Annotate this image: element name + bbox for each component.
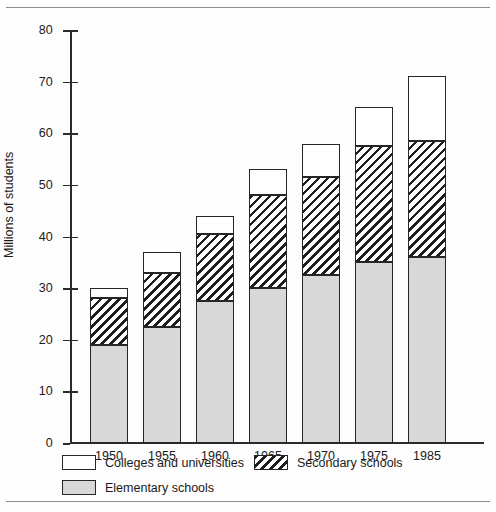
bar-segment-colleges-1970[interactable] [302, 144, 340, 178]
y-tick-label-0: 0 [46, 436, 53, 450]
bar-segment-colleges-1985[interactable] [408, 76, 446, 141]
legend-item-colleges-and-universities: Colleges and universities [62, 455, 244, 470]
bar-segment-elementary-1950[interactable] [90, 345, 128, 443]
y-tick-label-80: 80 [39, 23, 53, 37]
y-tick-label-20: 20 [39, 333, 53, 347]
y-tick-70: 70 [63, 82, 70, 84]
bar-1970[interactable] [302, 144, 340, 443]
bar-segment-elementary-1970[interactable] [302, 275, 340, 443]
bar-segment-secondary-1960[interactable] [196, 234, 234, 301]
legend-swatch-diagonal-hatch-icon [254, 455, 288, 470]
bar-segment-colleges-1950[interactable] [90, 288, 128, 298]
bar-segment-elementary-1960[interactable] [196, 301, 234, 443]
bar-1955[interactable] [143, 252, 181, 443]
bar-segment-secondary-1955[interactable] [143, 273, 181, 327]
legend-swatch-solid-gray-icon [62, 480, 96, 495]
y-tick-50: 50 [63, 185, 70, 187]
bar-1960[interactable] [196, 216, 234, 443]
y-tick-30: 30 [63, 288, 70, 290]
y-tick-10: 10 [63, 391, 70, 393]
bar-1950[interactable] [90, 288, 128, 443]
y-tick-label-60: 60 [39, 126, 53, 140]
bar-segment-elementary-1975[interactable] [355, 262, 393, 443]
bar-segment-elementary-1955[interactable] [143, 327, 181, 443]
legend-label-colleges: Colleges and universities [105, 456, 244, 470]
bar-group [70, 30, 484, 443]
legend-swatch-open-white-icon [62, 455, 96, 470]
chart-legend: Colleges and universities Secondary scho… [60, 455, 490, 503]
y-tick-60: 60 [63, 133, 70, 135]
y-tick-label-70: 70 [39, 75, 53, 89]
bar-segment-secondary-1985[interactable] [408, 141, 446, 257]
legend-item-elementary-schools: Elementary schools [62, 480, 214, 495]
figure-page: Millions of students 01020304050607080 1… [0, 0, 496, 512]
plot-area: 01020304050607080 1950195519601965197019… [70, 30, 484, 443]
bar-1975[interactable] [355, 107, 393, 443]
bar-segment-elementary-1985[interactable] [408, 257, 446, 443]
bar-1965[interactable] [249, 169, 287, 443]
y-tick-20: 20 [63, 340, 70, 342]
y-axis-title: Millions of students [2, 152, 16, 258]
bar-segment-secondary-1965[interactable] [249, 195, 287, 288]
bar-segment-colleges-1960[interactable] [196, 216, 234, 234]
legend-label-elementary: Elementary schools [105, 481, 214, 495]
y-tick-40: 40 [63, 237, 70, 239]
y-tick-label-10: 10 [39, 384, 53, 398]
y-tick-label-30: 30 [39, 281, 53, 295]
y-tick-label-40: 40 [39, 230, 53, 244]
bar-segment-colleges-1975[interactable] [355, 107, 393, 146]
bar-segment-colleges-1965[interactable] [249, 169, 287, 195]
bar-segment-secondary-1970[interactable] [302, 177, 340, 275]
bar-segment-secondary-1950[interactable] [90, 298, 128, 344]
legend-item-secondary-schools: Secondary schools [254, 455, 403, 470]
bar-segment-secondary-1975[interactable] [355, 146, 393, 262]
bar-1985[interactable] [408, 76, 446, 443]
legend-label-secondary: Secondary schools [297, 456, 403, 470]
y-tick-80: 80 [63, 30, 70, 32]
bar-segment-colleges-1955[interactable] [143, 252, 181, 273]
top-rule [6, 7, 490, 8]
bar-segment-elementary-1965[interactable] [249, 288, 287, 443]
y-tick-0: 0 [63, 443, 70, 445]
y-tick-label-50: 50 [39, 178, 53, 192]
